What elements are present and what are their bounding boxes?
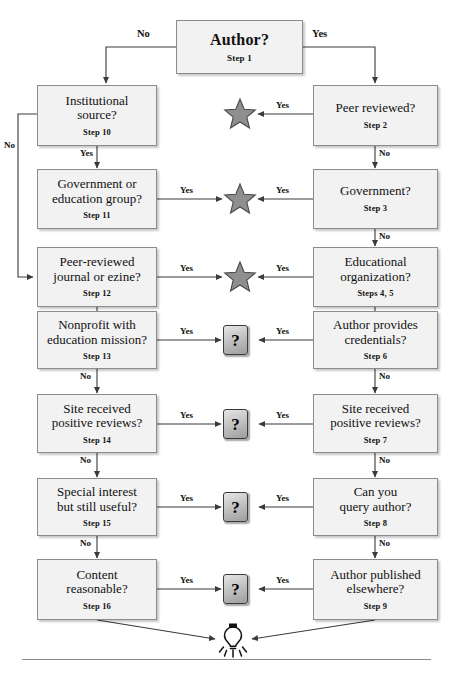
node-question: Special interest but still useful? <box>53 485 141 514</box>
question-mark-icon: ? <box>223 409 248 439</box>
star-icon <box>223 260 257 294</box>
edge-label-root-yes: Yes <box>312 28 327 39</box>
node-steps-4-5[interactable]: Educational organization? Steps 4, 5 <box>313 247 438 307</box>
node-step: Step 8 <box>364 519 388 529</box>
node-step-9[interactable]: Author published elsewhere? Step 9 <box>313 559 438 620</box>
node-step-10[interactable]: Institutional source? Step 10 <box>37 85 157 146</box>
edge-label-step15-no: No <box>80 538 91 548</box>
node-step-13[interactable]: Nonprofit with education mission? Step 1… <box>37 311 157 369</box>
question-mark-glyph: ? <box>231 581 240 598</box>
node-step-15[interactable]: Special interest but still useful? Step … <box>37 478 157 536</box>
flowchart-canvas: Author? Step 1 No Yes Peer reviewed? Ste… <box>0 0 453 676</box>
node-step-8[interactable]: Can you query author? Step 8 <box>313 478 438 536</box>
node-step: Steps 4, 5 <box>357 289 393 299</box>
node-question: Peer-reviewed journal or ezine? <box>49 255 144 284</box>
edge-label-step7-no: No <box>379 455 390 465</box>
edge-label-step3-yes: Yes <box>276 185 289 195</box>
edge-label-step45-yes: Yes <box>276 263 289 273</box>
edge-label-step10-no: No <box>4 140 15 150</box>
edge-label-step7-yes: Yes <box>276 410 289 420</box>
node-question: Government or education group? <box>48 177 146 206</box>
edge-label-step14-no: No <box>80 455 91 465</box>
node-question: Institutional source? <box>62 94 133 123</box>
node-question: Author? <box>206 31 273 49</box>
node-step: Step 3 <box>364 204 388 214</box>
node-step: Step 2 <box>364 121 388 131</box>
question-mark-glyph: ? <box>231 499 240 516</box>
node-step: Step 10 <box>83 128 111 138</box>
edge-label-step8-no: No <box>379 538 390 548</box>
edge-label-step6-yes: Yes <box>276 326 289 336</box>
edge-label-step6-no: No <box>379 371 390 381</box>
edge-label-step2-yes: Yes <box>276 100 289 110</box>
edge-label-root-no: No <box>137 28 150 39</box>
edge-label-step8-yes: Yes <box>276 493 289 503</box>
node-step-11[interactable]: Government or education group? Step 11 <box>37 169 157 229</box>
edge-label-step10-yes: Yes <box>80 148 93 158</box>
question-mark-icon: ? <box>223 574 248 604</box>
edge-label-step16-yes: Yes <box>180 575 193 585</box>
edge-label-step9-yes: Yes <box>276 575 289 585</box>
star-icon <box>223 97 257 131</box>
question-mark-glyph: ? <box>231 416 240 433</box>
node-step: Step 7 <box>364 436 388 446</box>
node-step: Step 13 <box>83 352 111 362</box>
node-step: Step 12 <box>83 289 111 299</box>
node-author-root[interactable]: Author? Step 1 <box>176 20 303 74</box>
lightbulb-icon <box>210 614 256 658</box>
node-step-16[interactable]: Content reasonable? Step 16 <box>37 559 157 620</box>
node-step: Step 15 <box>83 519 111 529</box>
footer-divider <box>22 659 431 660</box>
node-question: Author provides credentials? <box>329 318 422 347</box>
node-question: Content reasonable? <box>62 568 131 597</box>
node-step: Step 9 <box>364 602 388 612</box>
edge-label-step13-yes: Yes <box>180 326 193 336</box>
edge-label-step15-yes: Yes <box>180 493 193 503</box>
node-step: Step 1 <box>227 53 252 63</box>
node-question: Can you query author? <box>336 485 416 514</box>
node-question: Educational organization? <box>336 255 415 284</box>
node-question: Nonprofit with education mission? <box>43 318 151 347</box>
node-step-6[interactable]: Author provides credentials? Step 6 <box>313 311 438 369</box>
node-question: Government? <box>336 184 415 199</box>
node-step: Step 6 <box>364 352 388 362</box>
node-step: Step 14 <box>83 436 111 446</box>
node-step-3[interactable]: Government? Step 3 <box>313 169 438 229</box>
node-question: Peer reviewed? <box>332 101 420 116</box>
node-step: Step 11 <box>83 211 111 221</box>
edge-label-step2-no: No <box>379 148 390 158</box>
node-step-7[interactable]: Site received positive reviews? Step 7 <box>313 394 438 453</box>
node-question: Site received positive reviews? <box>326 402 425 431</box>
edge-label-step11-yes: Yes <box>180 185 193 195</box>
edge-label-step13-no: No <box>80 371 91 381</box>
question-mark-glyph: ? <box>231 332 240 349</box>
question-mark-icon: ? <box>223 492 248 522</box>
node-question: Site received positive reviews? <box>48 402 147 431</box>
question-mark-icon: ? <box>223 325 248 355</box>
edge-label-step12-yes: Yes <box>180 263 193 273</box>
node-step: Step 16 <box>83 602 111 612</box>
node-step-2[interactable]: Peer reviewed? Step 2 <box>313 85 438 146</box>
edge-label-step3-no: No <box>379 231 390 241</box>
node-step-14[interactable]: Site received positive reviews? Step 14 <box>37 394 157 453</box>
node-step-12[interactable]: Peer-reviewed journal or ezine? Step 12 <box>37 247 157 307</box>
star-icon <box>223 182 257 216</box>
node-question: Author published elsewhere? <box>326 568 425 597</box>
edge-label-step14-yes: Yes <box>180 410 193 420</box>
